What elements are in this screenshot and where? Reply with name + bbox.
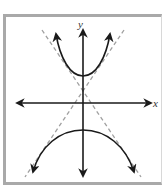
- y-axis-label: y: [77, 18, 83, 30]
- hyperbola-graph: y x: [0, 0, 163, 189]
- x-axis-label: x: [152, 97, 158, 109]
